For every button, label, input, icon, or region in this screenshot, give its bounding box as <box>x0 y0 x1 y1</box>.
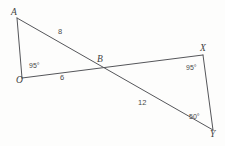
segment-o-x <box>22 55 203 78</box>
segment-a-o <box>17 18 22 78</box>
vertex-label-x: X <box>200 44 206 54</box>
vertex-label-a: A <box>11 8 17 18</box>
angle-label-o: 95° <box>29 62 40 69</box>
vertex-label-y: Y <box>210 130 215 140</box>
segment-x-y <box>203 55 213 130</box>
figure-canvas <box>0 0 225 146</box>
angle-label-y: 50° <box>189 113 200 120</box>
side-label-by: 12 <box>138 99 146 107</box>
angle-label-x: 95° <box>186 64 197 71</box>
side-label-ob: 6 <box>60 74 64 82</box>
segment-a-y <box>17 18 213 130</box>
vertex-label-o: O <box>16 76 23 86</box>
geometry-figure: A O B X Y 8 6 12 95° 95° 50° <box>0 0 225 146</box>
side-label-ab: 8 <box>58 28 62 36</box>
vertex-label-b: B <box>97 55 103 65</box>
